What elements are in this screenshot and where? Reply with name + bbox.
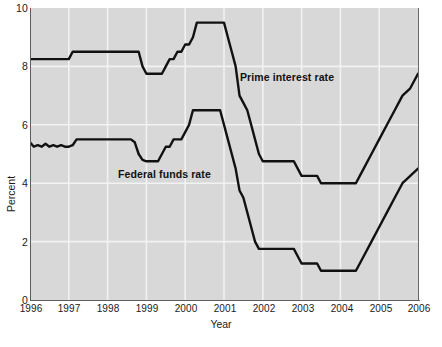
- y-axis-label: Percent: [5, 159, 17, 229]
- x-axis-label: Year: [0, 318, 442, 330]
- x-axis-line: [30, 300, 420, 301]
- x-tick-2000: 2000: [165, 303, 207, 314]
- x-tick-2001: 2001: [204, 303, 246, 314]
- x-tick-1997: 1997: [48, 303, 90, 314]
- x-tick-2004: 2004: [321, 303, 363, 314]
- figure-interest-rates: 10 8 6 4 2 0 1996 1997 1998 1999 2000 20…: [0, 0, 442, 347]
- annotation-federal-funds-rate: Federal funds rate: [118, 168, 211, 180]
- y-tick-8: 8: [4, 61, 28, 71]
- plot-area: [30, 8, 419, 300]
- x-tick-1999: 1999: [126, 303, 168, 314]
- figure-caption: [4, 338, 438, 346]
- chart-canvas: [30, 8, 418, 300]
- x-tick-2005: 2005: [360, 303, 402, 314]
- annotation-prime-interest-rate: Prime interest rate: [240, 71, 334, 83]
- y-axis-line: [30, 8, 31, 301]
- x-tick-1998: 1998: [87, 303, 129, 314]
- x-tick-2002: 2002: [243, 303, 285, 314]
- x-tick-1996: 1996: [10, 303, 52, 314]
- y-tick-6: 6: [4, 120, 28, 130]
- x-tick-2006: 2006: [398, 303, 440, 314]
- y-tick-2: 2: [4, 237, 28, 247]
- y-tick-10: 10: [4, 3, 28, 13]
- x-tick-2003: 2003: [282, 303, 324, 314]
